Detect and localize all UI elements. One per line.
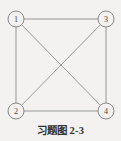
graph-node-1: 1 — [8, 11, 24, 27]
node-label-4: 4 — [104, 107, 108, 116]
edge-group — [16, 19, 106, 111]
node-label-3: 3 — [104, 15, 108, 24]
graph-node-3: 3 — [98, 11, 114, 27]
graph-diagram: 1 3 2 4 — [0, 0, 121, 121]
node-label-2: 2 — [14, 107, 18, 116]
caption-label-text: 习题图 — [37, 124, 68, 136]
node-label-1: 1 — [14, 15, 18, 24]
graph-node-2: 2 — [8, 103, 24, 119]
caption-number-text: 2-3 — [68, 125, 85, 136]
graph-node-4: 4 — [98, 103, 114, 119]
figure-caption: 习题图2-3 — [0, 122, 121, 139]
figure-container: 1 3 2 4 习题图2-3 — [0, 0, 121, 141]
